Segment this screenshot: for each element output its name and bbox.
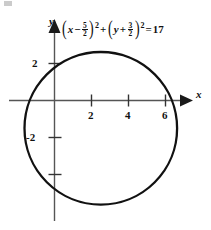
y-tick-label-minus-2: -2 <box>26 132 35 143</box>
equation-plus-sign-2: + <box>119 23 127 35</box>
equation-var-y: y <box>114 23 119 35</box>
fraction-numerator-5: 5 <box>82 22 88 30</box>
equation-annotation: (x−52)2+(y+32)2=17 <box>61 22 164 39</box>
equation-minus-sign: − <box>73 23 81 35</box>
equation-fraction-five-halves: 52 <box>82 22 88 39</box>
circle-graph-figure: 2 4 6 2 -2 y x (x−52)2+(y+32)2=17 <box>0 0 211 230</box>
x-tick-label-2: 2 <box>88 110 94 121</box>
x-tick-label-6: 6 <box>162 110 168 121</box>
y-axis-label: y <box>49 16 54 27</box>
equation-fraction-three-halves: 32 <box>128 22 134 39</box>
x-tick-label-4: 4 <box>125 110 131 121</box>
fraction-denominator-2b: 2 <box>128 29 134 38</box>
x-axis-arrowhead <box>180 95 193 107</box>
y-tick-label-2: 2 <box>32 58 38 69</box>
fraction-numerator-3: 3 <box>128 22 134 30</box>
equation-plus-sign: + <box>99 23 107 35</box>
circle-curve <box>25 52 178 205</box>
equation-rhs-value: 17 <box>153 23 164 35</box>
x-axis-label: x <box>196 89 202 100</box>
equation-equals-sign: = <box>144 23 152 35</box>
fraction-denominator-2: 2 <box>82 29 88 38</box>
